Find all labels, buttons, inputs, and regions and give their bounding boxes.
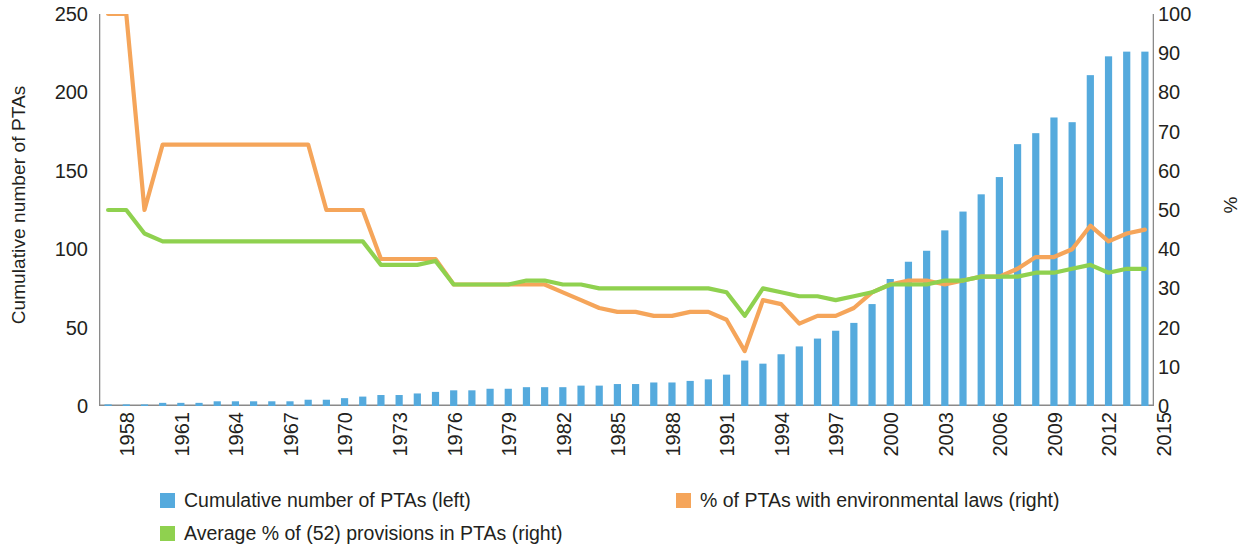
- bar: [796, 346, 803, 406]
- bar: [559, 387, 566, 406]
- left-axis-title-text: Cumulative number of PTAs: [8, 86, 30, 325]
- bar: [268, 401, 275, 406]
- x-axis-tick-label: 1979: [499, 412, 519, 457]
- left-axis-tick-labels: 050100150200250: [36, 0, 88, 410]
- x-axis-tick-label: 2012: [1099, 412, 1119, 457]
- bar: [177, 403, 184, 406]
- x-axis-tick-label: 2015: [1154, 412, 1174, 457]
- bar: [250, 401, 257, 406]
- bar: [978, 194, 985, 406]
- bar: [286, 401, 293, 406]
- bar: [596, 386, 603, 406]
- bar: [650, 382, 657, 406]
- bar: [396, 395, 403, 406]
- left-axis-tick-label: 150: [55, 161, 88, 181]
- x-axis-tick-label: 1961: [172, 412, 192, 457]
- bar: [104, 404, 111, 406]
- legend-item[interactable]: % of PTAs with environmental laws (right…: [676, 489, 1059, 512]
- bar: [468, 390, 475, 406]
- right-axis-tick-labels: 0102030405060708090100: [1158, 0, 1214, 410]
- bar: [141, 404, 148, 406]
- bar: [1123, 52, 1130, 406]
- bar: [541, 387, 548, 406]
- bar: [159, 403, 166, 406]
- legend-item[interactable]: Average % of (52) provisions in PTAs (ri…: [160, 522, 563, 545]
- right-axis-tick-label: 60: [1158, 161, 1180, 181]
- x-axis-tick-label: 1970: [335, 412, 355, 457]
- bar: [341, 398, 348, 406]
- bar: [432, 392, 439, 406]
- bar: [632, 384, 639, 406]
- chart-legend: Cumulative number of PTAs (left) Average…: [160, 489, 1210, 555]
- x-axis-tick-label: 1985: [608, 412, 628, 457]
- bar: [414, 393, 421, 406]
- bar: [687, 381, 694, 406]
- plot-svg: [99, 14, 1154, 406]
- left-axis-tick-label: 50: [66, 318, 88, 338]
- bar: [486, 389, 493, 406]
- right-axis-tick-label: 80: [1158, 82, 1180, 102]
- x-axis-tick-label: 1976: [445, 412, 465, 457]
- right-axis-tick-label: 10: [1158, 357, 1180, 377]
- bar: [778, 354, 785, 406]
- bar: [814, 339, 821, 406]
- bar: [377, 395, 384, 406]
- legend-swatch-icon: [160, 526, 175, 541]
- bar: [1105, 56, 1112, 406]
- left-axis-tick-label: 100: [55, 239, 88, 259]
- x-axis-tick-label: 1997: [826, 412, 846, 457]
- bar: [505, 389, 512, 406]
- x-axis-tick-label: 1973: [390, 412, 410, 457]
- x-axis-tick-label: 1967: [281, 412, 301, 457]
- bar: [959, 212, 966, 406]
- chart-page: Cumulative number of PTAs 05010015020025…: [0, 0, 1249, 559]
- bar: [614, 384, 621, 406]
- legend-item[interactable]: Cumulative number of PTAs (left): [160, 489, 471, 512]
- bar: [741, 361, 748, 406]
- legend-item-label: Cumulative number of PTAs (left): [184, 489, 471, 512]
- x-axis-tick-label: 1982: [554, 412, 574, 457]
- x-axis-tick-label: 2006: [990, 412, 1010, 457]
- bar: [668, 382, 675, 406]
- bar: [305, 400, 312, 406]
- x-axis-tick-label: 2003: [936, 412, 956, 457]
- bar: [723, 375, 730, 406]
- bar: [923, 251, 930, 406]
- x-axis-tick-label: 1964: [226, 412, 246, 457]
- right-axis-title-text: %: [1220, 197, 1242, 214]
- bar: [887, 279, 894, 406]
- legend-item-label: % of PTAs with environmental laws (right…: [700, 489, 1059, 512]
- x-axis-tick-label: 1994: [772, 412, 792, 457]
- right-axis-tick-label: 100: [1158, 4, 1191, 24]
- bar: [450, 390, 457, 406]
- x-axis-tick-label: 2009: [1045, 412, 1065, 457]
- bar: [123, 404, 130, 406]
- bar: [941, 230, 948, 406]
- bar: [523, 387, 530, 406]
- bar: [759, 364, 766, 406]
- right-axis-tick-label: 40: [1158, 239, 1180, 259]
- legend-swatch-icon: [160, 493, 175, 508]
- x-axis-tick-label: 1991: [717, 412, 737, 457]
- bar: [359, 397, 366, 406]
- legend-swatch-icon: [676, 493, 691, 508]
- bar: [705, 379, 712, 406]
- right-axis-tick-label: 30: [1158, 278, 1180, 298]
- right-axis-title: %: [1214, 0, 1248, 410]
- series-line: [108, 210, 1145, 316]
- bar: [832, 331, 839, 406]
- right-axis-tick-label: 70: [1158, 122, 1180, 142]
- bar: [1032, 133, 1039, 406]
- legend-item-label: Average % of (52) provisions in PTAs (ri…: [184, 522, 563, 545]
- bar: [868, 304, 875, 406]
- x-axis-tick-labels: 1958196119641967197019731976197919821985…: [99, 410, 1154, 480]
- left-axis-tick-label: 200: [55, 82, 88, 102]
- bar: [996, 177, 1003, 406]
- bar: [850, 323, 857, 406]
- right-axis-tick-label: 90: [1158, 43, 1180, 63]
- series-line: [108, 14, 1145, 351]
- bar: [195, 403, 202, 406]
- right-axis-tick-label: 20: [1158, 318, 1180, 338]
- left-axis-tick-label: 250: [55, 4, 88, 24]
- bar: [232, 401, 239, 406]
